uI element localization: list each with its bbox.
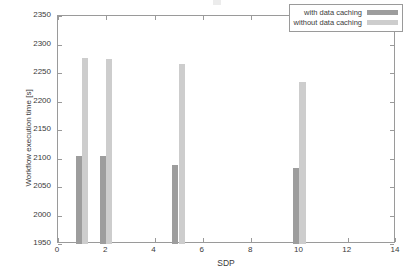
legend-label: without data caching — [294, 18, 362, 27]
y-tick-mark — [390, 187, 394, 188]
y-tick-mark — [390, 102, 394, 103]
y-tick-label: 2200 — [3, 97, 51, 105]
legend-swatch-with-data-caching — [367, 10, 398, 15]
x-tick-label: 0 — [42, 246, 72, 254]
y-tick-mark — [58, 102, 62, 103]
bar — [82, 58, 88, 244]
y-tick-label: 2350 — [3, 11, 51, 19]
x-tick-mark — [58, 238, 59, 242]
x-tick-mark — [395, 238, 396, 242]
x-tick-label: 14 — [380, 246, 407, 254]
y-tick-mark — [58, 244, 62, 245]
x-tick-mark — [251, 16, 252, 20]
y-tick-label: 2000 — [3, 211, 51, 219]
x-axis-title: SDP — [57, 258, 395, 268]
legend-item: with data caching — [294, 8, 398, 17]
y-tick-label: 2050 — [3, 182, 51, 190]
plot-area — [57, 15, 395, 243]
y-axis-title: Workflow execution time [s] — [24, 58, 33, 218]
y-tick-mark — [58, 187, 62, 188]
y-tick-label: 2100 — [3, 154, 51, 162]
legend-swatch-without-data-caching — [367, 20, 398, 25]
legend-label: with data caching — [304, 8, 362, 17]
x-tick-label: 10 — [283, 246, 313, 254]
x-tick-label: 8 — [235, 246, 265, 254]
y-tick-mark — [390, 159, 394, 160]
x-tick-label: 2 — [90, 246, 120, 254]
legend: with data caching without data caching — [289, 4, 403, 32]
y-tick-mark — [390, 73, 394, 74]
bar — [299, 82, 305, 244]
x-tick-mark — [348, 238, 349, 242]
y-tick-mark — [390, 244, 394, 245]
x-tick-label: 6 — [187, 246, 217, 254]
x-tick-mark — [251, 238, 252, 242]
y-tick-mark — [390, 216, 394, 217]
y-tick-mark — [58, 216, 62, 217]
y-tick-mark — [58, 159, 62, 160]
y-tick-mark — [58, 45, 62, 46]
top-edge-artifact — [213, 0, 221, 5]
y-tick-mark — [390, 130, 394, 131]
x-tick-mark — [203, 16, 204, 20]
bar — [100, 156, 106, 244]
y-tick-mark — [58, 130, 62, 131]
x-tick-mark — [155, 238, 156, 242]
y-tick-label: 2300 — [3, 40, 51, 48]
bar — [179, 64, 185, 244]
x-tick-mark — [106, 16, 107, 20]
x-tick-label: 12 — [332, 246, 362, 254]
y-tick-mark — [390, 45, 394, 46]
legend-item: without data caching — [294, 18, 398, 27]
bar — [106, 59, 112, 244]
x-tick-label: 4 — [139, 246, 169, 254]
x-tick-mark — [203, 238, 204, 242]
bar — [293, 168, 299, 244]
y-tick-label: 2150 — [3, 125, 51, 133]
bar — [76, 156, 82, 244]
x-tick-mark — [155, 16, 156, 20]
bar — [172, 165, 178, 244]
x-tick-mark — [58, 16, 59, 20]
y-tick-label: 2250 — [3, 68, 51, 76]
chart-container: Workflow execution time [s] SDP 19502000… — [0, 0, 407, 276]
y-tick-mark — [58, 73, 62, 74]
